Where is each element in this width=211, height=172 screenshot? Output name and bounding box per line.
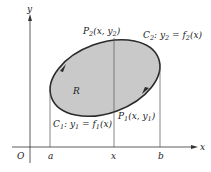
y-axis-label: y — [26, 4, 33, 14]
curve-label-c1: C1: y1 = f1(x) — [53, 119, 112, 131]
tick-label-x: x — [111, 151, 116, 161]
point-label-p1: P1(x, y1) — [117, 111, 156, 123]
point-label-p2: P2(x, y2) — [82, 26, 121, 38]
y-axis-arrow-icon — [28, 14, 32, 21]
region-label-r: R — [72, 86, 80, 96]
double-integral-region-diagram: y x O a x b R P2(x, y2) C2: y2 = f2(x) P… — [0, 0, 211, 172]
x-axis-label: x — [200, 142, 205, 152]
x-axis-arrow-icon — [191, 145, 198, 149]
curve-label-c2: C2: y2 = f2(x) — [143, 30, 202, 42]
tick-label-a: a — [48, 151, 53, 161]
origin-label: O — [17, 151, 25, 161]
tick-label-b: b — [158, 151, 164, 161]
